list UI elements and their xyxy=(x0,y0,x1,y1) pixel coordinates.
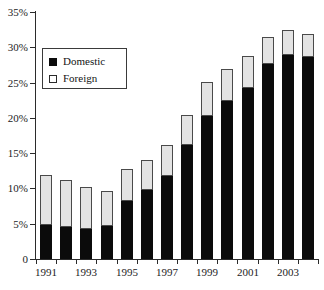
bar-segment-foreign xyxy=(221,69,233,101)
x-axis-tick xyxy=(96,259,97,264)
x-axis-label-1997: 1997 xyxy=(150,266,184,278)
bar-1995 xyxy=(121,169,133,259)
bar-segment-foreign xyxy=(60,180,72,227)
bar-2000 xyxy=(221,69,233,259)
bar-1994 xyxy=(101,191,113,259)
x-axis-tick xyxy=(56,259,57,264)
bar-segment-foreign xyxy=(141,160,153,190)
x-axis-tick xyxy=(318,259,319,264)
bar-segment-domestic xyxy=(40,225,52,259)
legend-label-domestic: Domestic xyxy=(63,56,105,67)
x-axis-tick xyxy=(237,259,238,264)
x-axis-label-1995: 1995 xyxy=(110,266,144,278)
bar-segment-domestic xyxy=(221,101,233,259)
x-axis-tick xyxy=(278,259,279,264)
bar-segment-domestic xyxy=(161,176,173,259)
bar-2004 xyxy=(302,34,314,259)
y-axis-label: 5% xyxy=(0,219,28,229)
bar-segment-domestic xyxy=(302,57,314,259)
stacked-bar-chart: 05%10%15%20%25%30%35% 199119931995199719… xyxy=(0,0,324,290)
x-axis-tick xyxy=(177,259,178,264)
bar-1996 xyxy=(141,160,153,259)
bar-segment-foreign xyxy=(40,175,52,225)
bar-segment-foreign xyxy=(121,169,133,201)
x-axis-tick xyxy=(298,259,299,264)
figure-caption xyxy=(6,281,306,290)
bar-1993 xyxy=(80,187,92,259)
bar-segment-foreign xyxy=(80,187,92,229)
y-axis-label: 15% xyxy=(0,148,28,158)
bar-2001 xyxy=(242,56,254,259)
bar-segment-domestic xyxy=(141,190,153,259)
legend-item-foreign: Foreign xyxy=(49,70,121,87)
x-axis-tick xyxy=(217,259,218,264)
bar-segment-foreign xyxy=(282,30,294,55)
bar-segment-foreign xyxy=(242,56,254,88)
y-axis-label: 10% xyxy=(0,183,28,193)
chart-legend: Domestic Foreign xyxy=(42,48,127,89)
bar-segment-domestic xyxy=(60,227,72,259)
bar-segment-domestic xyxy=(121,201,133,259)
bar-segment-foreign xyxy=(262,37,274,64)
bar-2003 xyxy=(282,30,294,259)
bar-segment-foreign xyxy=(181,115,193,145)
legend-label-foreign: Foreign xyxy=(63,73,97,84)
x-axis-label-1993: 1993 xyxy=(69,266,103,278)
bar-segment-foreign xyxy=(302,34,314,57)
y-axis-label: 35% xyxy=(0,7,28,17)
bar-1999 xyxy=(201,82,213,259)
bar-1997 xyxy=(161,145,173,259)
bar-1991 xyxy=(40,175,52,259)
bar-1992 xyxy=(60,180,72,259)
x-axis-label-2001: 2001 xyxy=(231,266,265,278)
bar-1998 xyxy=(181,115,193,259)
x-axis-tick xyxy=(117,259,118,264)
bar-segment-domestic xyxy=(181,145,193,259)
bar-segment-domestic xyxy=(101,226,113,259)
x-axis-label-1991: 1991 xyxy=(29,266,63,278)
legend-item-domestic: Domestic xyxy=(49,53,121,70)
x-axis-label-1999: 1999 xyxy=(190,266,224,278)
y-axis-label: 30% xyxy=(0,42,28,52)
bar-segment-foreign xyxy=(101,191,113,226)
x-axis-tick xyxy=(197,259,198,264)
x-axis-tick xyxy=(258,259,259,264)
legend-swatch-foreign-icon xyxy=(49,75,57,83)
bar-segment-foreign xyxy=(201,82,213,116)
y-axis-label: 25% xyxy=(0,78,28,88)
x-axis-tick xyxy=(157,259,158,264)
bar-segment-domestic xyxy=(80,229,92,259)
legend-swatch-domestic-icon xyxy=(49,58,57,66)
bar-2002 xyxy=(262,37,274,259)
x-axis-tick xyxy=(36,259,37,264)
x-axis-tick xyxy=(137,259,138,264)
y-axis-label: 20% xyxy=(0,113,28,123)
bar-segment-domestic xyxy=(201,116,213,259)
bar-segment-foreign xyxy=(161,145,173,176)
bar-segment-domestic xyxy=(282,55,294,259)
x-axis-tick xyxy=(76,259,77,264)
bar-segment-domestic xyxy=(242,88,254,259)
x-axis-label-2003: 2003 xyxy=(271,266,305,278)
y-axis-label: 0 xyxy=(0,254,28,264)
bar-segment-domestic xyxy=(262,64,274,259)
